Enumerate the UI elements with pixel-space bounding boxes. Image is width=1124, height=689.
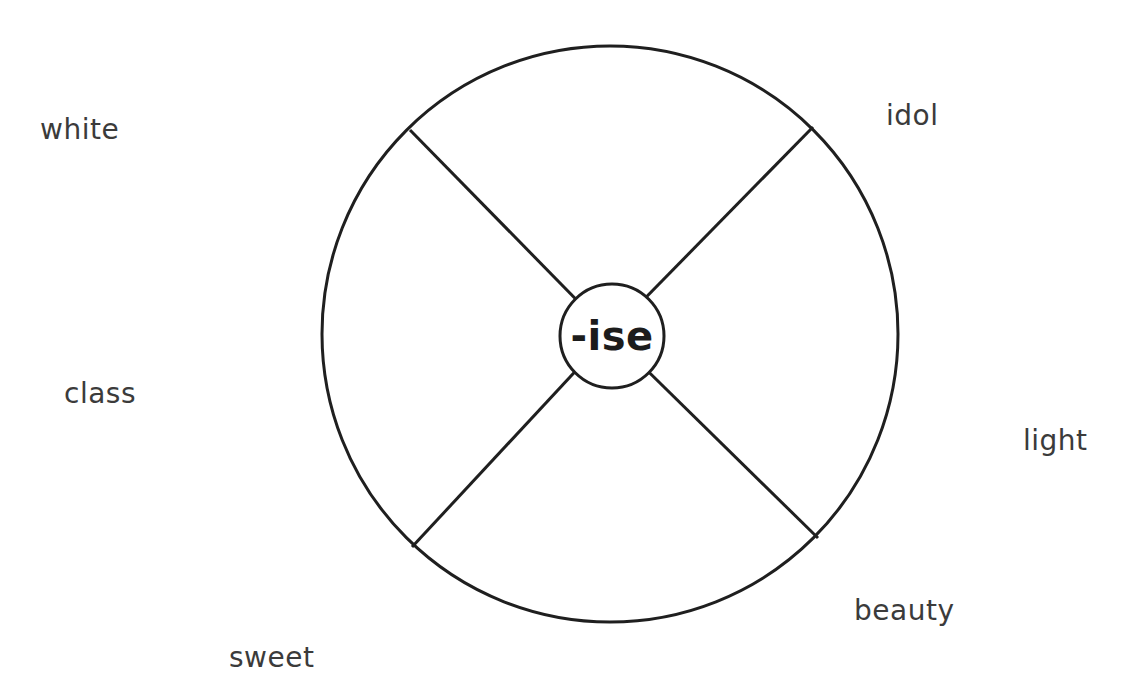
worksheet-page: -ise white idol class light beauty sweet xyxy=(0,0,1124,689)
word-label-idol: idol xyxy=(886,102,938,130)
word-label-white: white xyxy=(40,116,119,144)
suffix-label: -ise xyxy=(570,313,653,359)
word-label-class: class xyxy=(64,380,136,408)
word-label-sweet: sweet xyxy=(229,644,314,672)
word-label-light: light xyxy=(1023,427,1088,455)
word-wheel-diagram: -ise xyxy=(0,0,1124,689)
word-label-beauty: beauty xyxy=(854,597,954,625)
